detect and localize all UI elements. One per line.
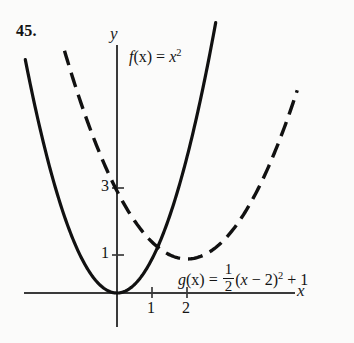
curve-f-solid <box>25 23 215 293</box>
x-tick-label-2: 2 <box>182 299 190 317</box>
fraction-numerator: 1 <box>223 262 235 277</box>
g-shift: 2 <box>265 271 273 288</box>
f-equals: = <box>152 48 169 65</box>
g-equals: = <box>205 271 222 288</box>
f-exponent: 2 <box>176 47 181 58</box>
curve-g-dashed <box>65 51 298 259</box>
x-tick-label-1: 1 <box>147 299 155 317</box>
g-minus: − <box>248 271 265 288</box>
fraction-one-half: 12 <box>223 262 235 295</box>
f-arg: (x) <box>133 48 152 65</box>
g-plus: + <box>283 271 300 288</box>
fraction-denominator: 2 <box>223 279 235 294</box>
y-tick-label-1: 1 <box>101 244 109 262</box>
problem-number: 45. <box>16 22 37 40</box>
y-tick-label-3: 3 <box>101 177 109 195</box>
g-constant: 1 <box>300 271 308 288</box>
y-axis-label: y <box>110 24 118 44</box>
g-arg: (x) <box>186 271 205 288</box>
g-variable: x <box>241 271 248 288</box>
g-name: g <box>178 271 186 288</box>
function-label-g: g(x) = 12(x − 2)2 + 1 <box>178 262 308 295</box>
function-label-f: f(x) = x2 <box>129 47 182 66</box>
